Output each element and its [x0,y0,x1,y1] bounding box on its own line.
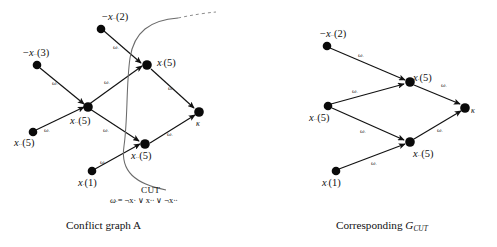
edge-r-x5left-to-x5up [331,84,404,104]
edge-label-x5low-kappa: ω∙ [167,131,173,138]
edge-negx2-to-x5mid [104,31,141,63]
caption-left: Conflict graph A [66,219,141,231]
edge-label-negx2-x5mid: ω∙ [113,44,119,51]
edge-label-x5left-x5low: ω∙ [103,127,109,134]
node-r-x-1[interactable] [332,167,341,176]
caption-right-prefix: Corresponding [336,219,405,231]
label-node-x-5-low: x∙∙(5) [131,151,151,162]
label-node-x-5-mid: x∙(5) [157,58,176,69]
node-r-x-5-left[interactable] [324,102,333,111]
label-node-kappa-left: κ [196,120,200,128]
node-x-5-left[interactable] [83,102,93,112]
edge-x5low-to-kappa [150,115,195,143]
label-node-x-1: x∙(1) [78,178,97,189]
edge-label-negx3-x5left: ω∙ [52,80,58,87]
node-x-5-bot-left[interactable] [29,128,38,137]
cut-label: CUT [141,186,160,195]
edge-r-x5up-to-kappa [414,85,460,104]
left-graph-edges [36,31,195,169]
edge-negx3-to-x5left [40,68,84,104]
cut-boundary-curve [123,12,216,190]
label-node-x-5-left: x∙∙(5) [70,116,90,127]
gcut-graph-edges [330,48,461,169]
edge-label-r-negx2-x5up: ω∙ [358,52,364,59]
edge-label-x5mid-kappa: ω∙ [168,85,174,92]
node-neg-x-3[interactable] [33,61,42,70]
label-node-r-x-1: x∙(1) [322,178,341,189]
label-node-r-neg-x-2: −x∙∙(2) [320,29,346,40]
edge-r-negx2-to-x5up [330,48,405,80]
label-node-r-x-5-left: x∙∙(5) [309,113,329,124]
edge-r-x5left-to-x5low [332,108,404,140]
node-r-neg-x-2[interactable] [323,42,332,51]
node-kappa-left[interactable] [194,107,204,117]
edge-label-r-x5left-x5low: ω∙ [360,128,366,135]
node-r-kappa[interactable] [460,103,470,113]
label-node-neg-x-3: −x∙∙(3) [23,48,49,59]
edge-label-r-x5low-kappa: ω∙ [437,127,443,134]
edge-label-x1-x5low: ω∙ [100,159,106,166]
cut-formula: ω∙= ¬x∙ ∨ x∙∙ ∨ ¬x∙∙ [110,197,177,206]
edge-label-r-x5left-x5up: ω∙ [352,88,358,95]
edge-label-r-x5up-kappa: ω∙ [441,82,447,89]
node-x-1[interactable] [88,167,97,176]
edge-label-x5left-x5mid: ω∙ [104,79,110,86]
gcut-graph-nodes [323,42,470,176]
figure-container: −x∙∙(2) −x∙∙(3) x∙(5) x∙∙(5) x∙∙(5) x∙∙(… [0,0,497,247]
node-x-5-low[interactable] [140,139,150,149]
node-x-5-mid[interactable] [142,60,152,70]
caption-right: Corresponding GCUT [336,219,428,233]
label-node-r-x-5-low: x∙∙(5) [413,149,433,160]
node-r-x-5-low[interactable] [405,137,415,147]
edge-x5left-to-x5mid [88,66,142,105]
label-node-r-kappa: κ [471,107,475,115]
edge-r-x5low-to-kappa [414,111,461,139]
label-node-x-5-bot-left: x∙∙(5) [14,138,34,149]
label-node-r-x-5-up: x∙(5) [413,73,432,84]
edge-label-x5bot-x5left: ω∙ [44,127,50,134]
edge-x5left-to-x5low [90,109,139,141]
node-neg-x-2[interactable] [97,25,106,34]
edge-label-r-x1-x5low: ω∙ [371,160,377,167]
caption-right-subscript: CUT [413,224,427,233]
label-node-neg-x-2: −x∙∙(2) [102,12,128,23]
